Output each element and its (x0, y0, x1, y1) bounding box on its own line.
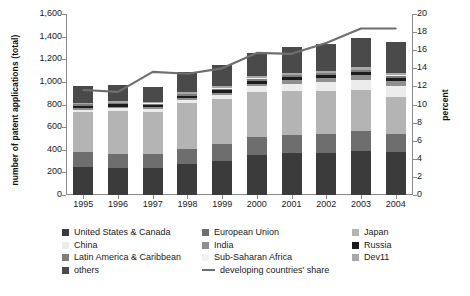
legend-color-swatch-icon (352, 254, 359, 261)
legend-item-label: others (74, 266, 99, 275)
legend-item-label: European Union (214, 228, 279, 237)
y-axis-left-tick-label: 1,000 (18, 77, 62, 86)
legend-item[interactable]: China (62, 241, 202, 250)
y-axis-right-tick-label: 20 (417, 9, 451, 18)
x-axis-tick-label: 2004 (376, 199, 416, 209)
legend-row: United States & CanadaEuropean UnionJapa… (62, 228, 462, 237)
y-axis-right-tick-label: 8 (417, 118, 451, 127)
chart-legend: United States & CanadaEuropean UnionJapa… (62, 228, 462, 278)
patent-applications-chart: number of patent applications (total) pe… (0, 0, 470, 296)
y-axis-right-tick-label: 0 (417, 190, 451, 199)
y-axis-right-tick-label: 4 (417, 154, 451, 163)
y-axis-left-title: number of patent applications (total) (10, 15, 20, 205)
legend-item-label: United States & Canada (74, 228, 171, 237)
legend-color-swatch-icon (62, 242, 69, 249)
y-axis-left-tick-label: 1,600 (18, 9, 62, 18)
y-axis-right-tick-label: 16 (417, 45, 451, 54)
legend-item[interactable]: developing countries' share (202, 266, 352, 275)
y-axis-right-tick-label: 14 (417, 63, 451, 72)
legend-item-label: India (214, 241, 234, 250)
line-developing-countries-share (83, 28, 395, 91)
legend-color-swatch-icon (352, 229, 359, 236)
legend-item[interactable]: Japan (352, 228, 452, 237)
y-axis-right-tick-label: 2 (417, 172, 451, 181)
legend-item[interactable]: others (62, 266, 202, 275)
y-axis-left-tick-label: 800 (18, 100, 62, 109)
legend-item-label: Russia (364, 241, 392, 250)
legend-row: othersdeveloping countries' share (62, 266, 462, 275)
y-axis-right-tick-label: 12 (417, 81, 451, 90)
legend-line-swatch-icon (202, 269, 215, 272)
legend-color-swatch-icon (62, 254, 69, 261)
legend-color-swatch-icon (62, 267, 69, 274)
legend-item[interactable]: United States & Canada (62, 228, 202, 237)
developing-share-line (66, 14, 413, 195)
legend-item-label: Latin America & Caribbean (74, 253, 181, 262)
legend-item[interactable]: Russia (352, 241, 452, 250)
legend-item[interactable]: Latin America & Caribbean (62, 253, 202, 262)
y-axis-left-tick-label: 1,400 (18, 32, 62, 41)
plot-area: 02004006008001,0001,2001,4001,600 024681… (66, 14, 413, 195)
legend-item-label: Dev11 (364, 253, 389, 262)
legend-item-label: developing countries' share (220, 266, 329, 275)
y-axis-left-tick-label: 0 (18, 190, 62, 199)
y-axis-right-tick-label: 18 (417, 27, 451, 36)
legend-color-swatch-icon (202, 229, 209, 236)
y-axis-left-tick-label: 400 (18, 145, 62, 154)
y-axis-left-tick (62, 195, 66, 196)
y-axis-left-tick-label: 200 (18, 167, 62, 176)
legend-color-swatch-icon (202, 254, 209, 261)
legend-item[interactable]: Dev11 (352, 253, 452, 262)
y-axis-right-tick-label: 6 (417, 136, 451, 145)
legend-color-swatch-icon (352, 242, 359, 249)
legend-item-label: Japan (364, 228, 389, 237)
legend-row: ChinaIndiaRussia (62, 241, 462, 250)
legend-row: Latin America & CaribbeanSub-Saharan Afr… (62, 253, 462, 262)
legend-item-label: Sub-Saharan Africa (214, 253, 292, 262)
legend-item[interactable]: India (202, 241, 352, 250)
y-axis-right-tick-label: 10 (417, 100, 451, 109)
legend-item[interactable]: Sub-Saharan Africa (202, 253, 352, 262)
legend-item[interactable]: European Union (202, 228, 352, 237)
legend-color-swatch-icon (62, 229, 69, 236)
legend-color-swatch-icon (202, 242, 209, 249)
y-axis-left-tick-label: 600 (18, 122, 62, 131)
legend-item-label: China (74, 241, 98, 250)
y-axis-left-tick-label: 1,200 (18, 54, 62, 63)
